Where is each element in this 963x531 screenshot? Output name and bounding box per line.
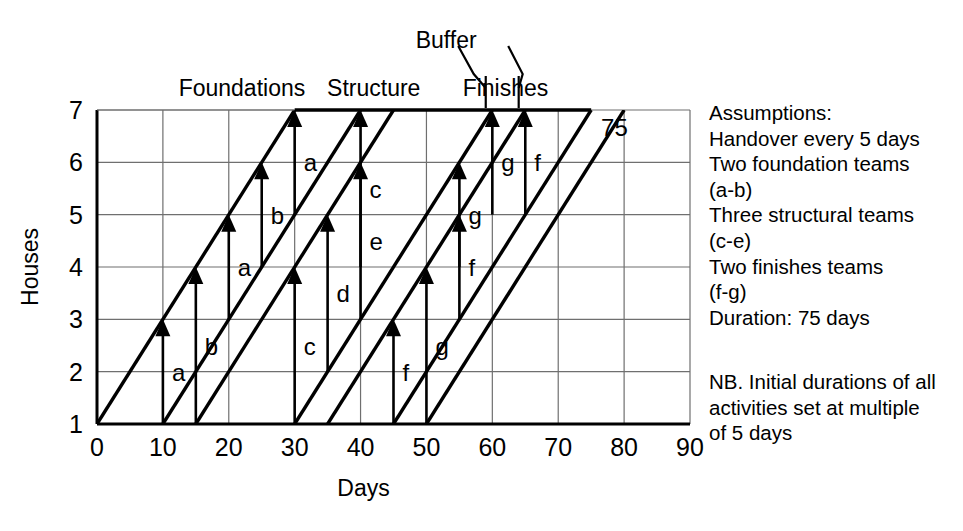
- activity-label-c: c: [370, 176, 382, 203]
- x-tick-label: 0: [90, 433, 104, 461]
- y-tick-label: 7: [69, 96, 83, 124]
- x-tick-label: 90: [676, 433, 704, 461]
- activity-label-f: f: [534, 149, 541, 176]
- x-tick-label: 50: [413, 433, 441, 461]
- duration-annotation: 75: [601, 114, 628, 141]
- phase-label-finishes: Finishes: [463, 75, 549, 101]
- x-tick-label: 10: [149, 433, 177, 461]
- activity-label-f: f: [468, 254, 475, 281]
- x-tick-label: 40: [347, 433, 375, 461]
- activity-label-b: b: [271, 202, 284, 229]
- x-tick-label: 30: [281, 433, 309, 461]
- y-tick-label: 1: [69, 410, 83, 438]
- chart-page: ababcadecfgfggf 010203040506070809012345…: [0, 0, 963, 531]
- y-tick-label: 3: [69, 305, 83, 333]
- activity-label-g: g: [468, 202, 481, 229]
- activity-label-c: c: [304, 333, 316, 360]
- x-tick-label: 70: [544, 433, 572, 461]
- activity-label-d: d: [337, 280, 350, 307]
- y-tick-label: 4: [69, 253, 83, 281]
- activity-label-e: e: [370, 228, 383, 255]
- phase-label-structure: Structure: [327, 75, 420, 101]
- activity-label-a: a: [172, 359, 186, 386]
- y-tick-label: 2: [69, 358, 83, 386]
- activity-label-b: b: [205, 333, 218, 360]
- x-tick-label: 80: [610, 433, 638, 461]
- phase-labels: FoundationsStructureFinishesBuffer: [179, 27, 549, 101]
- assumptions-text: Assumptions: Handover every 5 days Two f…: [709, 100, 920, 330]
- y-axis-title: Houses: [17, 228, 43, 306]
- activity-label-a: a: [238, 254, 252, 281]
- activity-label-a: a: [304, 149, 318, 176]
- y-tick-label: 5: [69, 201, 83, 229]
- y-tick-label: 6: [69, 148, 83, 176]
- activity-label-f: f: [403, 359, 410, 386]
- x-tick-label: 60: [478, 433, 506, 461]
- nb-note-text: NB. Initial durations of all activities …: [709, 369, 936, 446]
- phase-label-foundations: Foundations: [179, 75, 306, 101]
- activity-label-g: g: [435, 333, 448, 360]
- activity-label-g: g: [501, 149, 514, 176]
- x-tick-label: 20: [215, 433, 243, 461]
- x-axis-title: Days: [337, 475, 389, 501]
- phase-label-buffer: Buffer: [416, 27, 477, 53]
